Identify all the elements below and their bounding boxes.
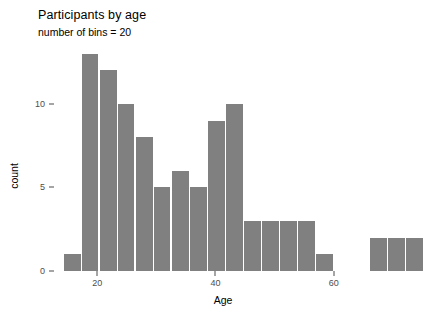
histogram-bar [64,254,81,271]
y-tick-label: 0 [40,266,45,276]
histogram-bar [406,238,423,271]
histogram-bar [172,171,189,271]
y-axis: count 0510 [0,42,57,271]
y-tick-label: 10 [35,99,45,109]
histogram-bar [118,104,135,271]
histogram-bar [100,70,117,271]
page-title: Participants by age [38,8,146,22]
chart-subtitle: number of bins = 20 [38,26,131,38]
x-axis: 204060 [57,271,446,295]
y-tick-label: 5 [40,182,45,192]
histogram-bar [154,187,171,271]
x-tick-label: 40 [210,278,220,288]
histogram-bar [388,238,405,271]
y-axis-label: count [8,146,20,206]
x-tick-mark [97,271,98,276]
y-tick-mark [49,187,54,188]
histogram-bar [208,121,225,271]
histogram-bar [316,254,333,271]
histogram-bar [370,238,387,271]
histogram-bar [280,221,297,271]
histogram-plot: Participants by age number of bins = 20 … [0,0,446,317]
histogram-bar [226,104,243,271]
histogram-bar [298,221,315,271]
histogram-bar [262,221,279,271]
histogram-bar [244,221,261,271]
x-tick-label: 60 [329,278,339,288]
histogram-bar [190,187,207,271]
x-tick-mark [333,271,334,276]
x-tick-label: 20 [92,278,102,288]
x-axis-label: Age [0,294,446,306]
plot-panel [57,42,446,271]
histogram-bar [82,54,99,271]
x-tick-mark [215,271,216,276]
y-tick-mark [49,271,54,272]
y-tick-mark [49,103,54,104]
histogram-bar [136,137,153,271]
